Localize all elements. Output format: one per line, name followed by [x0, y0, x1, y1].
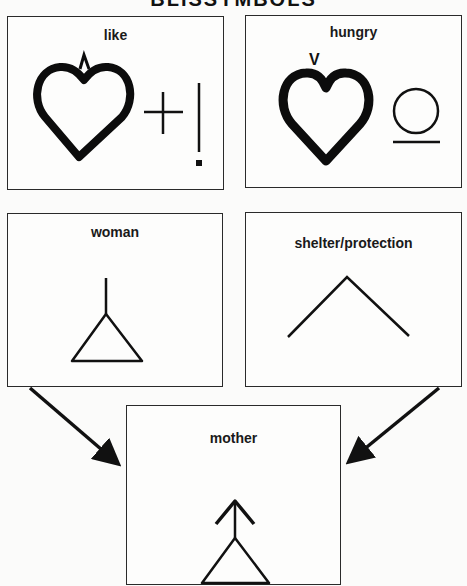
arrow-shelter-to-mother	[351, 388, 439, 460]
arrow-woman-to-mother	[30, 388, 116, 462]
